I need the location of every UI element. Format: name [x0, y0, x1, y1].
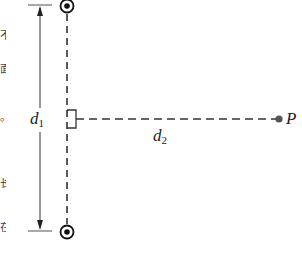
edge-text-fragment: 。 [0, 112, 6, 123]
arrow-down-icon [37, 220, 43, 230]
edge-text-fragment: 在 [0, 222, 6, 233]
d2-label-sub: 2 [162, 134, 168, 146]
two-wire-field-diagram [0, 0, 302, 267]
arrow-up-icon [37, 6, 43, 16]
edge-text-fragment: 不 [0, 30, 6, 41]
point-p-dot [275, 115, 282, 122]
d1-label: d1 [30, 110, 44, 129]
d2-label: d2 [153, 127, 167, 146]
edge-text-fragment: 长 [0, 178, 6, 189]
right-angle-marker-lower [67, 119, 76, 128]
d1-label-main: d [30, 109, 39, 128]
d1-label-sub: 1 [39, 117, 45, 129]
edge-text-fragment: 面 [0, 64, 6, 75]
right-angle-marker [67, 110, 76, 119]
bottom-wire-current-out-icon [61, 226, 74, 239]
point-p-label: P [286, 110, 296, 127]
top-wire-current-out-icon [61, 0, 74, 13]
d2-label-main: d [153, 126, 162, 145]
